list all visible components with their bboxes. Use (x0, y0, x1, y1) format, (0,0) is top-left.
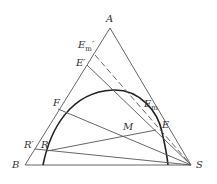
label-R: R (41, 140, 49, 150)
label-Em-prime: Em′ (78, 40, 94, 53)
label-E-prime: E′ (76, 58, 86, 68)
label-Em: Em (144, 99, 158, 112)
line-Eprime-S (87, 65, 191, 165)
label-A: A (106, 14, 113, 24)
triangle-outline (25, 28, 191, 165)
label-F: F (53, 98, 60, 108)
label-E: E (162, 120, 169, 130)
diagram-canvas (0, 0, 217, 184)
tie-line-R-E (47, 130, 156, 151)
label-R-prime: R′ (24, 140, 34, 150)
label-B: B (12, 160, 19, 170)
line-Emprime-S-dashed (95, 55, 191, 165)
label-S: S (196, 160, 203, 170)
line-F-S (58, 109, 191, 165)
ternary-diagram: A B S Em′ E′ Em E F M R R′ (0, 0, 217, 184)
label-M: M (123, 122, 133, 132)
